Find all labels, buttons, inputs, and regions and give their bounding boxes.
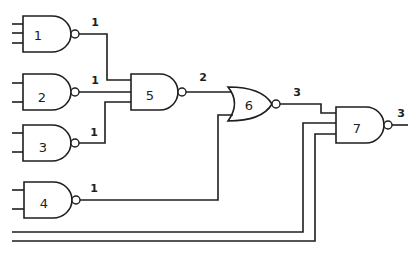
wire-g1-to-g5 xyxy=(79,34,131,80)
gate-3-inversion-bubble xyxy=(71,139,79,147)
gate-7-label: 7 xyxy=(353,121,361,136)
gate-2-nand: 2 xyxy=(12,74,79,110)
wire-label-g3-out: 1 xyxy=(90,126,98,139)
logic-circuit-diagram: 1 2 3 4 5 6 7 xyxy=(0,0,419,256)
gate-6-nor: 6 xyxy=(228,87,280,121)
gate-1-inversion-bubble xyxy=(71,30,79,38)
wire-label-g4-out: 1 xyxy=(90,182,98,195)
gate-5-nand: 5 xyxy=(131,74,186,110)
wire-label-g1-out: 1 xyxy=(91,16,99,29)
gate-2-label: 2 xyxy=(38,90,46,105)
gate-5-body xyxy=(131,74,178,110)
wire-label-g2-out: 1 xyxy=(91,74,99,87)
gate-2-body xyxy=(23,74,71,110)
gate-3-label: 3 xyxy=(39,140,47,155)
wire-g4-to-g6 xyxy=(80,115,233,200)
gate-5-inversion-bubble xyxy=(178,88,186,96)
wire-g3-to-g5 xyxy=(79,102,131,143)
gate-4-inversion-bubble xyxy=(72,196,80,204)
wire-label-g6-out: 3 xyxy=(293,86,301,99)
gate-2-inversion-bubble xyxy=(71,88,79,96)
wire-label-g7-out: 3 xyxy=(397,107,405,120)
gate-1-label: 1 xyxy=(34,28,42,43)
wire-g6-to-g7 xyxy=(280,104,336,113)
gate-4-nand: 4 xyxy=(12,182,80,218)
gate-3-nand: 3 xyxy=(12,125,79,161)
gate-6-inversion-bubble xyxy=(272,100,280,108)
gate-1-body xyxy=(23,16,71,52)
wire-label-g5-out: 2 xyxy=(199,71,207,84)
gate-7-inversion-bubble xyxy=(384,121,392,129)
gate-1-nand: 1 xyxy=(12,16,79,52)
gate-6-label: 6 xyxy=(245,98,253,113)
gate-4-label: 4 xyxy=(40,196,48,211)
gate-5-label: 5 xyxy=(146,88,154,103)
